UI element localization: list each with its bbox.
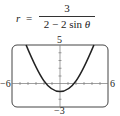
y-max-label: 5 bbox=[57, 35, 62, 45]
graph bbox=[0, 0, 120, 116]
y-min-label: −3 bbox=[54, 106, 65, 116]
x-min-label: −6 bbox=[0, 79, 11, 89]
x-max-label: 6 bbox=[110, 79, 115, 89]
